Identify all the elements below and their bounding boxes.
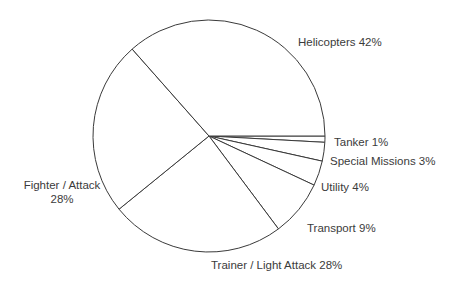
pie-label-fighter-attack-line1: Fighter / Attack	[12, 178, 112, 192]
pie-label-fighter-attack-line2: 28%	[12, 192, 112, 206]
pie-chart-canvas	[0, 0, 460, 284]
pie-label-trainer-light-attack: Trainer / Light Attack 28%	[211, 258, 342, 272]
pie-slices-group	[93, 20, 325, 252]
pie-label-utility: Utility 4%	[321, 180, 369, 194]
pie-label-tanker: Tanker 1%	[334, 135, 388, 149]
pie-label-special-missions: Special Missions 3%	[330, 154, 435, 168]
pie-label-helicopters: Helicopters 42%	[298, 35, 382, 49]
pie-label-transport: Transport 9%	[307, 221, 376, 235]
pie-chart: Helicopters 42% Tanker 1% Special Missio…	[0, 0, 460, 284]
pie-label-fighter-attack: Fighter / Attack 28%	[12, 178, 112, 206]
